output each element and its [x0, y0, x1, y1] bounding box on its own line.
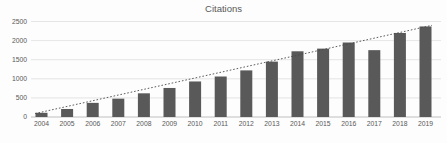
- bar-chart-canvas: Citations 050010001500200025002004200520…: [0, 0, 447, 143]
- bar-2011: [215, 77, 227, 117]
- bar-2004: [36, 113, 48, 117]
- bar-2007: [112, 99, 124, 117]
- bar-2019: [420, 26, 432, 117]
- citations-chart: Citations 050010001500200025002004200520…: [0, 0, 447, 143]
- x-tick-label: 2005: [60, 120, 75, 127]
- bar-2015: [317, 49, 329, 117]
- x-tick-label: 2010: [188, 120, 203, 127]
- x-tick-label: 2017: [367, 120, 382, 127]
- x-tick-label: 2015: [316, 120, 331, 127]
- x-tick-label: 2006: [85, 120, 100, 127]
- x-tick-label: 2016: [341, 120, 356, 127]
- bar-2017: [368, 50, 380, 117]
- bar-2012: [240, 70, 252, 117]
- y-tick-label: 1000: [12, 75, 27, 82]
- bars-group: [36, 26, 432, 117]
- x-tick-label: 2019: [418, 120, 433, 127]
- y-tick-label: 500: [16, 94, 28, 101]
- bar-2010: [189, 81, 201, 117]
- x-tick-label: 2018: [392, 120, 407, 127]
- bar-2016: [343, 43, 355, 117]
- x-tick-label: 2011: [213, 120, 228, 127]
- x-tick-label: 2004: [34, 120, 49, 127]
- bar-2005: [61, 109, 73, 117]
- bar-2018: [394, 33, 406, 117]
- y-tick-label: 2500: [12, 18, 27, 25]
- y-tick-label: 2000: [12, 37, 27, 44]
- bar-2008: [138, 93, 150, 117]
- y-tick-label: 0: [23, 113, 27, 120]
- bar-2009: [164, 88, 176, 117]
- x-tick-label: 2013: [264, 120, 279, 127]
- x-tick-label: 2012: [239, 120, 254, 127]
- y-tick-label: 1500: [12, 56, 27, 63]
- x-tick-label: 2009: [162, 120, 177, 127]
- x-tick-label: 2014: [290, 120, 305, 127]
- x-tick-label: 2007: [111, 120, 126, 127]
- bar-2013: [266, 62, 278, 117]
- bar-2006: [87, 103, 99, 117]
- bar-2014: [292, 51, 304, 117]
- chart-title: Citations: [205, 3, 242, 14]
- x-tick-label: 2008: [136, 120, 151, 127]
